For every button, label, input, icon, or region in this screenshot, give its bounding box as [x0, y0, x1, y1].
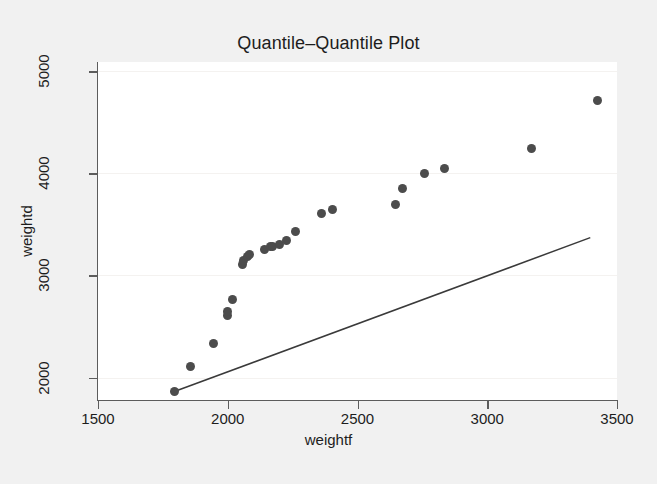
y-tick-mark: [89, 378, 97, 379]
y-tick-mark: [89, 275, 97, 276]
y-axis-line: [97, 62, 98, 401]
x-tick-mark: [617, 401, 618, 409]
x-tick-mark: [98, 401, 99, 409]
data-point: [420, 169, 429, 178]
data-point: [170, 387, 179, 396]
qq-plot-figure: Quantile–Quantile Plot 2000300040005000 …: [0, 0, 657, 484]
data-point: [245, 250, 254, 259]
x-tick-label: 2000: [211, 410, 244, 427]
y-tick-label: 3000: [35, 259, 52, 292]
y-tick-label: 5000: [35, 55, 52, 88]
x-tick-label: 3500: [600, 410, 633, 427]
scatter-points-layer: [98, 62, 617, 400]
y-tick-mark: [89, 71, 97, 72]
x-tick-label: 2500: [341, 410, 374, 427]
x-tick-mark: [487, 401, 488, 409]
x-tick-mark: [358, 401, 359, 409]
data-point: [228, 295, 237, 304]
y-tick-label: 4000: [35, 157, 52, 190]
data-point: [209, 339, 218, 348]
data-point: [291, 227, 300, 236]
y-tick-label: 2000: [35, 361, 52, 394]
x-tick-label: 3000: [471, 410, 504, 427]
plot-area: [98, 62, 617, 400]
x-tick-label: 1500: [81, 410, 114, 427]
data-point: [391, 200, 400, 209]
data-point: [527, 144, 536, 153]
data-point: [317, 209, 326, 218]
data-point: [593, 96, 602, 105]
data-point: [328, 205, 337, 214]
data-point: [440, 164, 449, 173]
data-point: [282, 236, 291, 245]
data-point: [398, 184, 407, 193]
data-point: [186, 362, 195, 371]
page-title: Quantile–Quantile Plot: [0, 33, 657, 54]
y-axis-title: weightd: [18, 205, 35, 257]
x-axis-title: weightf: [0, 431, 657, 448]
x-tick-mark: [228, 401, 229, 409]
y-tick-mark: [89, 173, 97, 174]
